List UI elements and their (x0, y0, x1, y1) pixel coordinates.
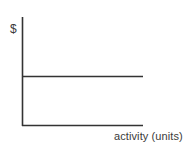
chart-area (0, 0, 185, 149)
y-axis-label: $ (10, 22, 17, 36)
x-axis-label: activity (units) (114, 130, 183, 143)
